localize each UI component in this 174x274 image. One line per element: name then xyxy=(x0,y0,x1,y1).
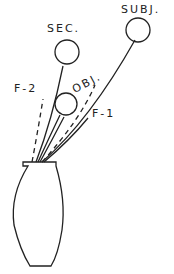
label-f2: F-2 xyxy=(14,82,37,95)
label-obj: OBJ. xyxy=(70,70,103,96)
stem-f1 xyxy=(44,118,88,162)
circle-obj xyxy=(55,93,77,115)
label-sec: SEC. xyxy=(47,22,80,35)
stem-f2-dashed xyxy=(32,99,43,162)
vase xyxy=(13,162,63,266)
circle-sec xyxy=(55,40,79,64)
stem-obj-dashed xyxy=(42,85,95,162)
label-subj: SUBJ. xyxy=(121,3,160,16)
vase-diagram: SUBJ. SEC. OBJ. F-1 F-2 xyxy=(0,0,174,274)
circle-subj xyxy=(126,18,150,42)
label-f1: F-1 xyxy=(92,107,115,120)
